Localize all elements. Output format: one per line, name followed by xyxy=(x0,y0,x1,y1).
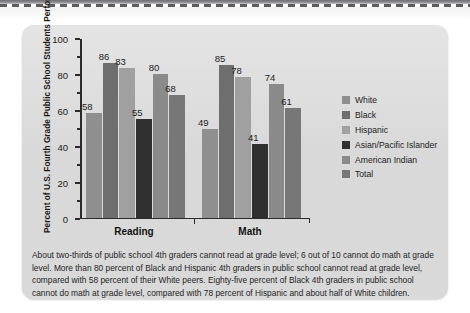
bar: 80 xyxy=(153,74,169,218)
legend-label: White xyxy=(355,95,377,105)
legend-item: American Indian xyxy=(342,152,452,167)
legend-label: Hispanic xyxy=(355,125,388,135)
legend-label: Black xyxy=(355,110,376,120)
bar: 49 xyxy=(202,129,218,217)
legend-swatch xyxy=(342,170,350,178)
legend-swatch xyxy=(342,96,350,104)
bar-value-label: 49 xyxy=(198,117,209,128)
y-tick-minor xyxy=(77,56,80,57)
bar-value-label: 78 xyxy=(231,65,242,76)
chart-legend: WhiteBlackHispanicAsian/Pacific Islander… xyxy=(342,93,452,182)
legend-item: White xyxy=(342,93,452,108)
legend-item: Asian/Pacific Islander xyxy=(342,137,452,152)
bar: 83 xyxy=(119,68,135,217)
x-axis-group-label: Reading xyxy=(114,226,153,237)
y-tick-major: 80 xyxy=(75,74,80,76)
figure-caption: About two-thirds of public school 4th gr… xyxy=(32,249,438,299)
y-axis-line xyxy=(80,39,82,219)
plot-area: 020406080100588683558068Reading498578417… xyxy=(80,39,310,219)
legend-swatch xyxy=(342,141,350,149)
bar: 58 xyxy=(86,113,102,217)
x-axis-group-label: Math xyxy=(238,226,261,237)
y-tick-major: 20 xyxy=(75,182,80,184)
y-tick-major: 0 xyxy=(75,218,80,220)
bar-value-label: 74 xyxy=(265,72,276,83)
legend-swatch xyxy=(342,111,350,119)
legend-swatch xyxy=(342,126,350,134)
y-tick-major: 40 xyxy=(75,146,80,148)
legend-item: Black xyxy=(342,108,452,123)
legend-item: Hispanic xyxy=(342,123,452,138)
bar-value-label: 86 xyxy=(99,51,110,62)
bar: 86 xyxy=(103,63,119,218)
bar-value-label: 83 xyxy=(115,56,126,67)
bar-value-label: 85 xyxy=(215,53,226,64)
bar-value-label: 41 xyxy=(248,132,259,143)
bar: 41 xyxy=(252,144,268,218)
bar-value-label: 61 xyxy=(281,96,292,107)
y-tick-label: 60 xyxy=(57,106,68,117)
legend-label: Asian/Pacific Islander xyxy=(355,140,437,150)
bar: 55 xyxy=(136,119,152,218)
bar-value-label: 80 xyxy=(149,62,160,73)
y-tick-label: 20 xyxy=(57,178,68,189)
y-tick-label: 40 xyxy=(57,142,68,153)
bar-value-label: 58 xyxy=(82,101,93,112)
bar: 61 xyxy=(285,108,301,218)
x-axis-group-separator xyxy=(194,219,195,224)
y-tick-minor xyxy=(77,200,80,201)
y-axis-title-wrap: Percent of U.S. Fourth Grade Public Scho… xyxy=(30,35,64,235)
x-axis-end-cap xyxy=(309,219,310,223)
y-tick-minor xyxy=(77,164,80,165)
y-axis-title: Percent of U.S. Fourth Grade Public Scho… xyxy=(42,37,53,233)
y-tick-major: 60 xyxy=(75,110,80,112)
bar: 78 xyxy=(235,77,251,217)
bar: 85 xyxy=(219,65,235,218)
y-tick-major: 100 xyxy=(75,38,80,40)
y-tick-minor xyxy=(77,128,80,129)
bar: 68 xyxy=(169,95,185,217)
y-tick-label: 100 xyxy=(52,34,68,45)
legend-item: Total xyxy=(342,167,452,182)
legend-swatch xyxy=(342,156,350,164)
legend-label: American Indian xyxy=(355,155,417,165)
y-tick-label: 0 xyxy=(63,214,68,225)
scan-fade xyxy=(0,7,470,21)
legend-label: Total xyxy=(355,169,373,179)
bar-value-label: 68 xyxy=(165,83,176,94)
bar-value-label: 55 xyxy=(132,107,143,118)
y-tick-label: 80 xyxy=(57,70,68,81)
y-tick-minor xyxy=(77,92,80,93)
figure-card: Percent of U.S. Fourth Grade Public Scho… xyxy=(22,25,448,299)
